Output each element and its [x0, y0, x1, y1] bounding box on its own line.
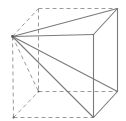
edge-front-bottom-left-to-back-bottom-left — [14, 92, 39, 118]
vertex-apex — [11, 35, 14, 38]
edge-apex-to-back-top-left — [13, 9, 39, 37]
edge-apex-to-back-bottom-right — [13, 37, 118, 92]
vertex-front-bottom-left — [13, 117, 15, 119]
edge-apex-to-front-top-right — [13, 35, 94, 37]
edge-apex-to-back-top-right — [13, 9, 118, 37]
visible-edges — [13, 9, 118, 118]
vertex-back-bottom-left — [38, 91, 40, 93]
edge-front-top-right-to-back-top-right — [94, 9, 118, 35]
edge-front-bottom-right-to-back-bottom-right — [94, 92, 118, 118]
cube-pyramid-diagram — [0, 0, 126, 121]
edge-apex-to-back-bottom-left — [13, 37, 39, 92]
edge-apex-to-front-bottom-left — [13, 37, 14, 118]
